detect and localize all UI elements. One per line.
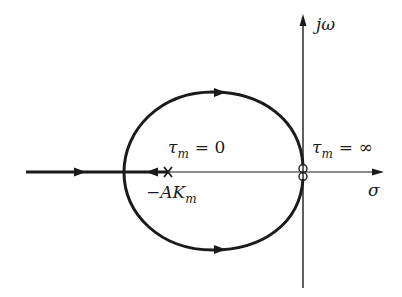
root-locus-diagram: jω σ τm= 0 τm= ∞ −AKm [0,0,402,297]
pole-label: −AKm [146,182,197,206]
tau-zero-label: τm= 0 [168,137,225,161]
locus-arrow-bottom-icon [214,245,226,254]
real-axis-arrow-icon [372,169,384,176]
tau-inf-label: τm= ∞ [312,137,373,161]
imag-axis-arrow-icon [300,14,307,26]
imag-axis-label: jω [312,14,335,34]
locus-arrow-top-icon [214,88,226,97]
locus-real-axis-branch [26,168,168,177]
locus-arrow-left-icon [146,168,158,177]
locus-arrow-right-icon [74,168,86,177]
real-axis-label: σ [368,180,380,200]
